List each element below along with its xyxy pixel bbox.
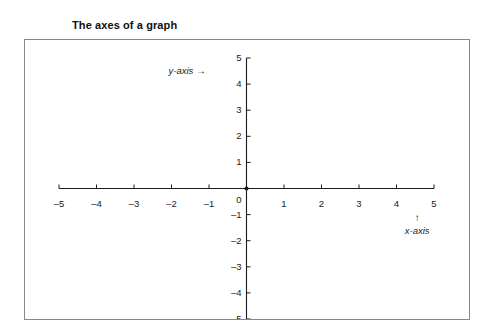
- y-tick-label: –3: [231, 262, 242, 272]
- x-tick-label: –5: [54, 199, 65, 209]
- axes-svg: [25, 41, 469, 319]
- y-axis-label-text: y-axis: [169, 65, 194, 76]
- y-tick-label: 2: [236, 132, 241, 142]
- x-tick-label: 3: [356, 199, 361, 209]
- x-tick-label: 2: [319, 199, 324, 209]
- plot-area: –5–4–3–2–112345543210–1–2–3–4–5 y-axis →…: [25, 41, 469, 319]
- y-tick-label: –5: [231, 314, 242, 319]
- figure-title-bar: The axes of a graph: [24, 14, 470, 40]
- y-tick-label: –4: [231, 288, 242, 298]
- x-tick-label: –3: [129, 199, 140, 209]
- x-tick-label: –2: [166, 199, 177, 209]
- y-tick-label: –1: [231, 210, 242, 220]
- y-axis-annotation: y-axis →: [169, 66, 207, 76]
- arrow-right-icon: →: [193, 65, 206, 76]
- x-axis-annotation: ↑x-axis: [405, 212, 430, 236]
- y-tick-label: 4: [236, 79, 241, 89]
- y-tick-label: 5: [236, 53, 241, 63]
- y-tick-label: 3: [236, 105, 241, 115]
- figure-root: The axes of a graph –5–4–3–2–11234554321…: [0, 0, 493, 335]
- x-tick-label: 4: [394, 199, 399, 209]
- arrow-up-icon: ↑: [405, 212, 430, 223]
- x-axis-label-text: x-axis: [405, 226, 430, 236]
- x-tick-label: –4: [91, 199, 102, 209]
- x-tick-label: 1: [281, 199, 286, 209]
- origin-label: 0: [236, 195, 241, 205]
- page-title: The axes of a graph: [72, 19, 177, 31]
- x-tick-label: 5: [431, 199, 436, 209]
- origin-dot: [244, 186, 248, 190]
- x-tick-label: –1: [204, 199, 215, 209]
- y-tick-label: –2: [231, 236, 242, 246]
- origin-marker: [244, 186, 248, 190]
- y-tick-label: 1: [236, 158, 241, 168]
